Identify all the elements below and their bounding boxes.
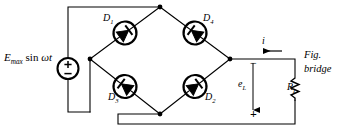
diode-label-d3: D3: [108, 92, 119, 105]
diode-label-d4: D4: [203, 13, 214, 26]
diode-label-d1: D1: [103, 13, 114, 26]
diode-d1-symbol: [109, 17, 141, 49]
current-label: i: [262, 36, 265, 46]
load-minus-sign: −: [250, 57, 257, 69]
load-resistor-label: RL: [287, 82, 297, 95]
node-left: [88, 57, 93, 62]
figure-caption-line1: Fig.: [304, 48, 331, 62]
wire-source-bottom: [68, 78, 90, 112]
load-plus-sign: +: [250, 108, 257, 120]
voltage-source-symbol: [58, 58, 79, 79]
figure-caption-line2: bridge: [304, 62, 331, 76]
diode-label-d2: D2: [205, 92, 216, 105]
figure-bridge-rectifier: Emax sin ωt D1 D4 D3 D2 i eL RL − + Fig.…: [0, 0, 344, 136]
circuit-schematic: [0, 0, 344, 136]
node-top: [158, 5, 163, 10]
load-voltage-label: eL: [238, 79, 246, 92]
wire-load-top: [230, 59, 295, 78]
figure-caption: Fig. bridge: [304, 48, 331, 76]
source-label: Emax sin ωt: [4, 52, 52, 66]
